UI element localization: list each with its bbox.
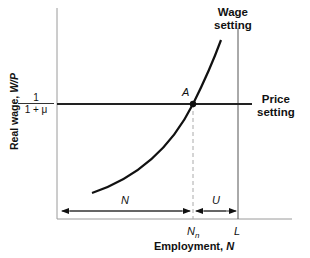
- employment-bracket-label: N: [121, 194, 129, 206]
- wage-setting-label: Wage setting: [214, 6, 252, 32]
- x-tick-labor-force: L: [234, 225, 240, 237]
- fraction-numerator: 1: [18, 92, 54, 104]
- point-A-label: A: [182, 86, 189, 98]
- fraction-denominator: 1 + μ: [18, 104, 54, 115]
- price-setting-label: Price setting: [257, 93, 295, 119]
- x-tick-natural-employment: Nn: [187, 225, 199, 240]
- x-axis-label: Employment, N: [154, 240, 234, 252]
- unemployment-bracket-label: U: [212, 194, 220, 206]
- price-level-fraction: 1 1 + μ: [18, 92, 54, 115]
- equilibrium-point-A: [190, 101, 196, 107]
- wage-setting-curve: [92, 40, 221, 193]
- diagram-canvas: [0, 0, 310, 258]
